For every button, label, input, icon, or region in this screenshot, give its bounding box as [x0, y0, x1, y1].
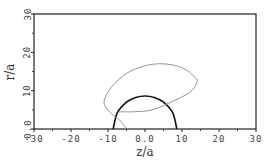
series-group [104, 64, 197, 129]
x-tick-label: 0.0 [135, 134, 154, 144]
x-tick-label: 10 [176, 134, 189, 144]
chart: -30-20-100.0102030 0.0102030 z/a r/a [0, 0, 272, 160]
axis-ticks [31, 14, 256, 132]
plot-frame [34, 14, 256, 129]
x-tick-labels: -30-20-100.0102030 [24, 134, 262, 144]
x-tick-label: -10 [98, 134, 117, 144]
x-tick-label: 30 [250, 134, 263, 144]
y-tick-label: 0.0 [23, 119, 33, 138]
x-tick-label: -20 [61, 134, 80, 144]
y-tick-label: 10 [23, 84, 33, 97]
y-tick-label: 30 [23, 8, 33, 21]
y-tick-label: 20 [23, 46, 33, 59]
x-tick-label: 20 [213, 134, 226, 144]
x-axis-label: z/a [136, 145, 154, 159]
y-tick-labels: 0.0102030 [23, 8, 33, 139]
y-axis-label: r/a [3, 64, 17, 81]
